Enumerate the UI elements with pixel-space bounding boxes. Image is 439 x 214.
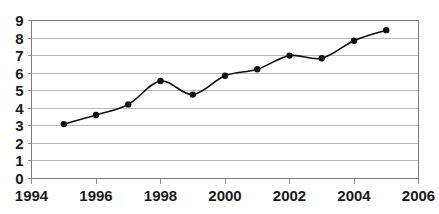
line-chart: 0123456789 1994199619982000200220042006: [0, 0, 439, 214]
x-tick-label: 2002: [273, 187, 306, 204]
y-tick-label: 3: [15, 117, 23, 134]
chart-background: [0, 0, 439, 214]
x-tick-label: 2004: [337, 187, 371, 204]
data-point-1996: [93, 112, 99, 118]
data-point-2003: [319, 55, 325, 61]
data-point-1997: [125, 101, 131, 107]
y-tick-label: 1: [15, 152, 23, 169]
x-tick-label: 1998: [144, 187, 177, 204]
data-point-2005: [383, 27, 389, 33]
y-tick-label: 0: [15, 170, 23, 187]
x-tick-label: 2006: [402, 187, 435, 204]
data-point-1995: [61, 121, 67, 127]
y-tick-label: 4: [15, 100, 24, 117]
x-tick-label: 1994: [15, 187, 49, 204]
y-tick-label: 2: [15, 135, 23, 152]
data-point-2001: [254, 66, 260, 72]
data-point-1999: [190, 91, 196, 97]
x-tick-label: 1996: [79, 187, 112, 204]
y-axis-tick-labels: 0123456789: [15, 12, 24, 187]
y-tick-label: 9: [15, 12, 23, 29]
y-tick-label: 8: [15, 30, 23, 47]
data-point-1998: [157, 78, 163, 84]
data-point-2004: [351, 37, 357, 43]
data-point-2000: [222, 73, 228, 79]
y-tick-label: 6: [15, 65, 23, 82]
data-point-2002: [286, 52, 292, 58]
x-tick-label: 2000: [208, 187, 241, 204]
y-tick-label: 7: [15, 47, 23, 64]
chart-canvas: 0123456789 1994199619982000200220042006: [0, 0, 439, 214]
y-tick-label: 5: [15, 82, 23, 99]
